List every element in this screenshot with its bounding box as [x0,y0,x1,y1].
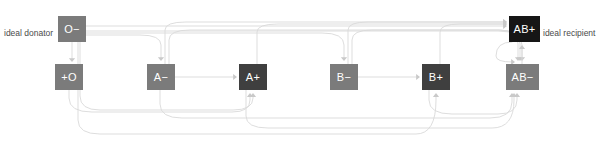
edge-path [165,22,503,64]
node-label: A− [154,72,168,83]
node-label: +O [61,72,77,83]
node-label: B− [337,72,351,83]
node-ab-pos[interactable]: AB+ [509,16,540,42]
edge-path [69,90,250,112]
edge-o-neg-to-o-pos [69,42,75,62]
edge-arrowhead [433,93,439,97]
edge-ab-pos-to-ab-neg [496,42,515,65]
node-b-pos[interactable]: B+ [422,64,450,90]
node-label: AB+ [514,24,536,35]
blood-type-compatibility-diagram: O−AB++OA−A+B−B+AB− ideal donatorideal re… [0,0,607,142]
edge-b-pos-to-ab-neg [429,90,520,114]
edge-path [496,42,512,62]
node-a-neg[interactable]: A− [147,64,175,90]
edge-path [429,90,517,114]
edge-o-neg-to-b-neg [86,33,347,61]
edge-o-neg-to-a-neg [86,35,164,61]
edge-a-pos-to-ab-neg [246,90,517,128]
node-b-neg[interactable]: B− [330,64,358,90]
annotation-ideal-recipient: ideal recipient [543,29,595,38]
edge-arrowhead [341,57,347,61]
edge-path [348,22,503,64]
node-o-neg[interactable]: O− [58,16,86,42]
edge-path [86,31,522,58]
edge-arrowhead [416,74,420,80]
node-a-pos[interactable]: A+ [239,64,267,90]
edge-a-neg-to-ab-neg [169,30,523,64]
edge-b-neg-to-b-pos [358,74,420,80]
node-label: O− [64,24,80,35]
edge-path [246,90,514,128]
edge-arrowhead [158,57,164,61]
node-ab-neg[interactable]: AB− [506,64,539,90]
node-label: AB− [512,72,534,83]
edge-path [86,35,161,58]
edge-path [86,33,344,58]
edge-b-pos-to-ab-pos [440,21,507,64]
node-label: B+ [429,72,443,83]
edge-path [352,30,518,64]
node-label: A+ [246,72,260,83]
edge-b-neg-to-ab-neg [352,30,521,64]
edge-arrowhead [233,74,237,80]
node-o-pos[interactable]: +O [55,64,83,90]
edge-arrowhead [69,58,75,62]
edge-a-pos-to-ab-pos [257,21,507,64]
edge-a-neg-to-a-pos [175,74,237,80]
annotation-ideal-donator: ideal donator [4,29,53,38]
edge-o-neg-to-ab-neg [86,31,525,61]
